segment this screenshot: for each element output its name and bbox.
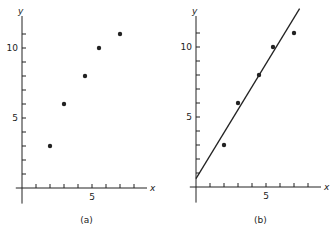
data-point <box>236 101 240 105</box>
fit-line <box>196 9 300 179</box>
data-point <box>62 102 66 106</box>
panel-b: 5510xy(b) <box>181 6 330 225</box>
data-point <box>83 74 87 78</box>
x-tick-label-5: 5 <box>89 192 95 202</box>
y-axis-label: y <box>17 6 24 16</box>
data-point <box>48 144 52 148</box>
data-point <box>97 46 101 50</box>
y-tick-label-10: 10 <box>7 43 19 53</box>
x-tick-label-5: 5 <box>263 191 269 201</box>
data-point <box>118 32 122 36</box>
x-axis-label: x <box>149 183 156 193</box>
panel-caption: (b) <box>254 215 267 225</box>
y-tick-label-10: 10 <box>181 42 193 52</box>
y-tick-label-5: 5 <box>12 113 18 123</box>
x-axis-label: x <box>323 182 330 192</box>
data-point <box>257 73 261 77</box>
data-point <box>271 45 275 49</box>
y-axis-label: y <box>191 6 198 16</box>
figure: 5510xy(a) 5510xy(b) <box>0 0 333 240</box>
panel-a: 5510xy(a) <box>7 6 156 225</box>
panel-caption: (a) <box>80 215 93 225</box>
data-point <box>222 143 226 147</box>
y-tick-label-5: 5 <box>186 112 192 122</box>
data-point <box>292 31 296 35</box>
